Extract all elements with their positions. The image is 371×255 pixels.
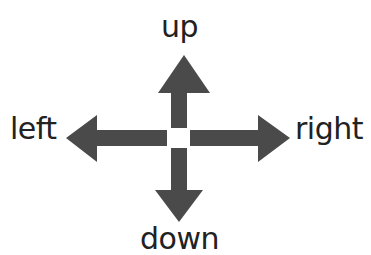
label-left: left xyxy=(10,114,57,144)
label-right: right xyxy=(295,114,363,144)
label-down: down xyxy=(140,224,219,254)
arrow-up-icon xyxy=(158,55,210,128)
label-up: up xyxy=(161,12,198,42)
arrow-left-icon xyxy=(66,115,167,162)
arrow-down-icon xyxy=(155,148,203,222)
arrow-right-icon xyxy=(190,115,290,162)
